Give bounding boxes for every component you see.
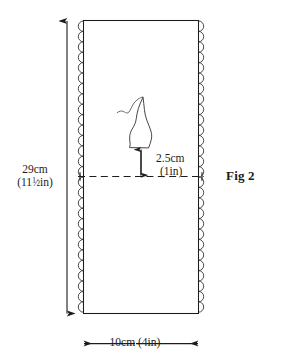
figure-caption: Fig 2 — [226, 169, 255, 184]
motif-offset-imperial: (1in) — [156, 165, 218, 178]
figure-2-diagram: 29cm (111⁄2in) 2.5cm (1in) 10cm (4in) Fi… — [0, 0, 284, 364]
height-imperial-value: (111⁄2in) — [2, 176, 68, 189]
scalloped-left-edge — [78, 21, 83, 312]
height-metric-value: 29cm — [22, 163, 48, 175]
motif-offset-metric: 2.5cm — [156, 152, 184, 164]
height-dimension-label: 29cm (111⁄2in) — [2, 163, 68, 189]
width-dimension-label: 10cm (4in) — [92, 336, 178, 349]
height-imperial-whole: 11 — [21, 176, 32, 188]
motif-offset-label: 2.5cm (1in) — [156, 152, 218, 178]
height-imperial-unit: in — [40, 176, 49, 188]
